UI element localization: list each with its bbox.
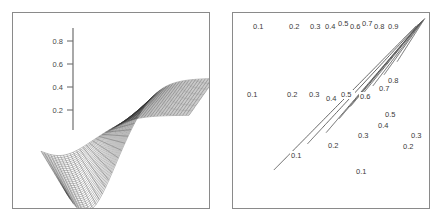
mesh-line-u <box>183 79 209 116</box>
contour-top-labels: 0.10.20.30.40.50.60.70.80.9 <box>253 19 398 31</box>
surface-plot-svg: 0.8 0.6 0.4 0.2 <box>13 13 209 208</box>
surface-wireframe-mesh <box>41 79 209 208</box>
contour-inline-label-9: 0.4 <box>378 121 388 130</box>
contour-top-label-7: 0.8 <box>374 22 384 31</box>
surface-plot-panel: 0.8 0.6 0.4 0.2 <box>12 12 210 209</box>
contour-curve-0_9 <box>397 18 425 61</box>
contour-inline-label-12: 0.1 <box>291 151 301 160</box>
mesh-line-v <box>59 90 207 195</box>
contour-top-label-0: 0.1 <box>253 22 263 31</box>
contour-inline-label-7: 0.8 <box>388 76 398 85</box>
mesh-line-v <box>56 94 204 187</box>
axis-tick-label-02: 0.2 <box>53 106 63 115</box>
contour-inline-label-0: 0.1 <box>247 90 257 99</box>
contour-inline-label-11: 0.2 <box>328 141 338 150</box>
contour-top-label-8: 0.9 <box>388 22 398 31</box>
mesh-line-v <box>54 97 202 184</box>
mesh-line-u <box>118 107 144 125</box>
contour-inline-label-3: 0.4 <box>326 94 336 103</box>
contour-inline-label-10: 0.3 <box>358 131 368 140</box>
mesh-line-v <box>52 99 200 180</box>
contour-inline-label-4: 0.5 <box>341 90 351 99</box>
contour-inline-label-8: 0.5 <box>385 110 395 119</box>
axis-tick-label-06: 0.6 <box>53 60 63 69</box>
contour-plot-svg: 0.10.20.30.40.50.60.70.80.9 0.10.20.30.4… <box>233 13 429 208</box>
contour-inline-labels: 0.10.20.30.40.50.60.70.80.50.40.30.20.10… <box>246 76 425 176</box>
mesh-line-v <box>61 87 209 199</box>
two-panel-figure: 0.8 0.6 0.4 0.2 0.10.20.30.40.50.60.70.8… <box>0 0 443 221</box>
mesh-line-v <box>64 83 209 204</box>
mesh-line-u <box>128 95 154 121</box>
mesh-line-u <box>41 151 67 194</box>
contour-inline-label-14: 0.2 <box>403 142 413 151</box>
mesh-line-v <box>50 103 198 174</box>
mesh-line-v <box>58 91 206 193</box>
contour-inline-label-6: 0.7 <box>379 84 389 93</box>
contour-inline-label-13: 0.3 <box>411 131 421 140</box>
contour-top-label-4: 0.5 <box>338 19 348 28</box>
mesh-line-v <box>49 104 197 172</box>
contour-top-label-6: 0.7 <box>362 19 372 28</box>
surface-axis-tick-labels: 0.8 0.6 0.4 0.2 <box>53 37 63 115</box>
contour-plot-panel: 0.10.20.30.40.50.60.70.80.9 0.10.20.30.4… <box>232 12 430 209</box>
contour-inline-label-15: 0.1 <box>356 167 366 176</box>
contour-inline-label-1: 0.2 <box>287 90 297 99</box>
mesh-line-v <box>44 112 192 162</box>
contour-top-label-1: 0.2 <box>289 22 299 31</box>
axis-tick-label-04: 0.4 <box>53 83 63 92</box>
contour-inline-label-5: 0.6 <box>360 92 370 101</box>
surface-vertical-axis <box>67 28 73 130</box>
contour-top-label-5: 0.6 <box>350 22 360 31</box>
contour-top-label-3: 0.4 <box>325 22 335 31</box>
contour-top-label-2: 0.3 <box>310 22 320 31</box>
contour-inline-label-2: 0.3 <box>309 90 319 99</box>
axis-tick-label-08: 0.8 <box>53 37 63 46</box>
